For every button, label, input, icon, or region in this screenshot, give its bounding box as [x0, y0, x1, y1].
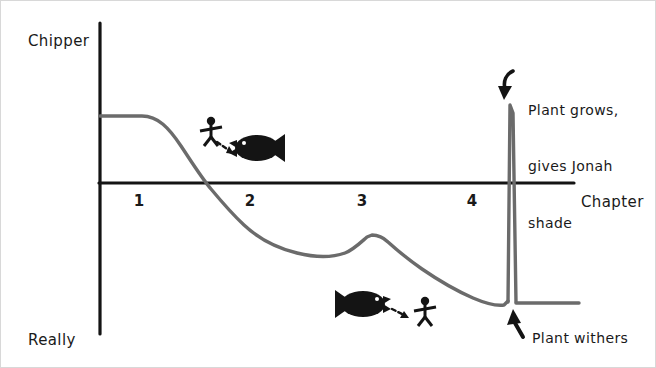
- icon-group-spat-out: [335, 290, 436, 326]
- annotation-arrow-plant-grows: [498, 71, 513, 100]
- stick-figure-icon: [414, 297, 436, 326]
- icon-group-swallowed: [200, 117, 285, 162]
- y-axis-top-label: Chipper: [28, 31, 89, 51]
- annotation-plant-grows-line3: shade: [528, 214, 619, 233]
- y-axis-bottom-label-line1: Really: [28, 330, 109, 350]
- chart-figure: Chipper Really not impressed Chapter 1 2…: [0, 0, 656, 368]
- axes-group: [99, 23, 574, 334]
- mood-line-path: [100, 116, 508, 305]
- annotation-plant-grows-line2: gives Jonah: [528, 157, 619, 176]
- stick-figure-icon: [200, 117, 222, 146]
- fish-icon: [229, 134, 285, 162]
- dashed-arrow-icon: [392, 309, 409, 318]
- annotation-plant-withers: Plant withers: [532, 329, 628, 348]
- annotation-plant-grows-line1: Plant grows,: [528, 101, 619, 120]
- fish-icon: [335, 290, 391, 318]
- x-tick-label-1: 1: [129, 192, 149, 210]
- x-tick-label-4: 4: [462, 192, 482, 210]
- y-axis-bottom-label: Really not impressed: [28, 289, 109, 368]
- series-jonah-mood: [100, 105, 579, 305]
- annotation-arrow-plant-withers: [507, 309, 523, 337]
- x-tick-label-3: 3: [352, 192, 372, 210]
- x-tick-label-2: 2: [240, 192, 260, 210]
- annotation-plant-grows: Plant grows, gives Jonah shade: [528, 63, 619, 271]
- mood-spike-path: [508, 105, 516, 302]
